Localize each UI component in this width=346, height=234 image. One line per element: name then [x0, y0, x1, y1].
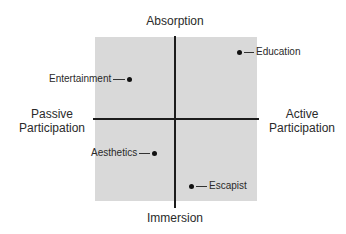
- point-aesthetics: Aesthetics: [91, 147, 157, 159]
- axis-label-right-line2: Participation: [262, 121, 342, 135]
- leader-line: [113, 79, 125, 80]
- point-entertainment: Entertainment: [49, 73, 132, 85]
- point-label: Education: [256, 46, 300, 58]
- leader-line: [244, 52, 254, 53]
- axis-label-left-line1: Passive: [14, 107, 90, 121]
- axis-label-left-line2: Participation: [14, 121, 90, 135]
- point-label: Aesthetics: [91, 147, 137, 159]
- axis-label-left: Passive Participation: [14, 107, 90, 135]
- axis-label-right-line1: Active: [262, 107, 342, 121]
- point-marker-icon: [189, 184, 194, 189]
- point-education: Education: [237, 46, 300, 58]
- point-marker-icon: [152, 151, 157, 156]
- axis-label-top: Absorption: [135, 14, 215, 28]
- point-marker-icon: [127, 77, 132, 82]
- axis-label-right: Active Participation: [262, 107, 342, 135]
- point-marker-icon: [237, 50, 242, 55]
- vertical-axis-line: [174, 36, 176, 208]
- point-label: Entertainment: [49, 73, 111, 85]
- axis-label-bottom: Immersion: [135, 211, 215, 225]
- point-escapist: Escapist: [189, 180, 247, 192]
- leader-line: [196, 186, 207, 187]
- horizontal-axis-line: [93, 118, 259, 120]
- point-label: Escapist: [209, 180, 247, 192]
- leader-line: [139, 153, 150, 154]
